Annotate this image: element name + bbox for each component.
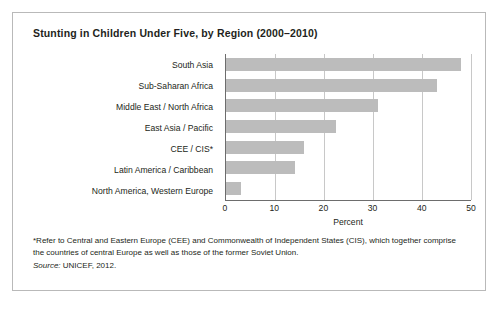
x-tick-label: 0 bbox=[223, 203, 228, 213]
category-label: South Asia bbox=[33, 54, 219, 75]
category-label: North America, Western Europe bbox=[33, 180, 219, 201]
bar-row bbox=[226, 95, 471, 116]
bar-latin-america-caribbean bbox=[226, 161, 295, 174]
bar-row bbox=[226, 54, 471, 75]
bar-row bbox=[226, 116, 471, 137]
category-label: East Asia / Pacific bbox=[33, 117, 219, 138]
bar-east-asia-pacific bbox=[226, 120, 336, 133]
category-label: CEE / CIS* bbox=[33, 138, 219, 159]
x-tick-label: 20 bbox=[319, 203, 329, 213]
source-label: Source: bbox=[33, 261, 61, 270]
bars-region bbox=[225, 54, 471, 201]
bar-row bbox=[226, 178, 471, 199]
bar-row bbox=[226, 75, 471, 96]
bar-north-america-western-europe bbox=[226, 182, 241, 195]
bar-cee-cis bbox=[226, 141, 304, 154]
bar-row bbox=[226, 158, 471, 179]
bar-south-asia bbox=[226, 58, 461, 71]
gridline bbox=[471, 54, 472, 200]
bar-sub-saharan-africa bbox=[226, 79, 437, 92]
x-tick-label: 10 bbox=[269, 203, 279, 213]
x-axis-title: Percent bbox=[225, 217, 471, 227]
category-label: Sub-Saharan Africa bbox=[33, 75, 219, 96]
figure-frame: Stunting in Children Under Five, by Regi… bbox=[12, 12, 486, 291]
x-tick-label: 40 bbox=[417, 203, 427, 213]
bars-stack bbox=[226, 54, 471, 199]
category-axis-labels: South Asia Sub-Saharan Africa Middle Eas… bbox=[33, 54, 219, 201]
plot-area: South Asia Sub-Saharan Africa Middle Eas… bbox=[33, 54, 471, 224]
bar-middle-east-north-africa bbox=[226, 99, 378, 112]
source-value: UNICEF, 2012. bbox=[63, 261, 116, 270]
x-tick-label: 50 bbox=[466, 203, 476, 213]
x-tick-label: 30 bbox=[368, 203, 378, 213]
source-note: Source: UNICEF, 2012. bbox=[33, 261, 116, 270]
footnote: *Refer to Central and Eastern Europe (CE… bbox=[33, 235, 465, 258]
bar-row bbox=[226, 137, 471, 158]
chart-title: Stunting in Children Under Five, by Regi… bbox=[33, 27, 318, 39]
x-axis-tick-labels: 01020304050 bbox=[225, 203, 471, 217]
category-label: Middle East / North Africa bbox=[33, 96, 219, 117]
category-label: Latin America / Caribbean bbox=[33, 159, 219, 180]
